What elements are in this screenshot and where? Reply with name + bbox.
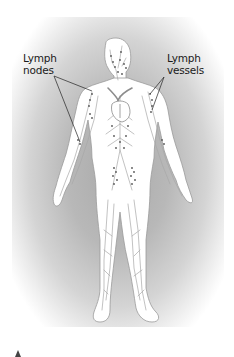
lymph-vessels-label-line2: vessels bbox=[167, 64, 204, 76]
lymph-nodes-label-line2: nodes bbox=[23, 64, 57, 76]
lymph-vessels-label: Lymph vessels bbox=[167, 52, 204, 76]
lymphatic-system-figure: Lymph nodes Lymph vessels bbox=[12, 17, 224, 327]
lymph-nodes-label: Lymph nodes bbox=[23, 52, 57, 76]
lymph-vessels-label-line1: Lymph bbox=[167, 52, 204, 64]
lymph-nodes-label-line1: Lymph bbox=[23, 52, 57, 64]
triangle-up-icon bbox=[15, 350, 21, 357]
